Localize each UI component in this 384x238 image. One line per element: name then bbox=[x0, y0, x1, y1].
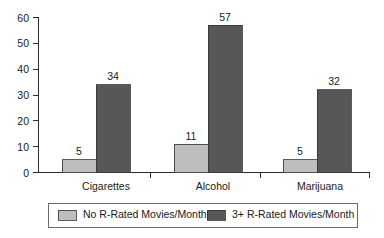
y-tick-label: 40 bbox=[17, 63, 29, 75]
bar-value-label: 5 bbox=[76, 145, 82, 157]
legend-swatch-3plus-r-rated bbox=[207, 210, 225, 220]
bar-value-label: 5 bbox=[297, 145, 303, 157]
bar-value-label: 32 bbox=[328, 75, 340, 87]
y-axis-ticks bbox=[33, 18, 39, 173]
bar-marijuana-no-r-rated bbox=[283, 160, 317, 173]
bar-cigarettes-3plus-r-rated bbox=[96, 85, 130, 173]
bar-alcohol-3plus-r-rated bbox=[208, 25, 242, 172]
bar-cigarettes-no-r-rated bbox=[62, 160, 96, 173]
legend-swatch-no-r-rated bbox=[58, 210, 76, 220]
x-category-label-alcohol: Alcohol bbox=[196, 180, 230, 192]
y-axis-tick-labels: 60 50 40 30 20 10 0 bbox=[17, 12, 29, 179]
bar-alcohol-no-r-rated bbox=[174, 144, 208, 172]
bar-value-label: 11 bbox=[186, 130, 197, 142]
bar-value-label: 57 bbox=[219, 11, 231, 23]
bar-marijuana-3plus-r-rated bbox=[317, 90, 351, 173]
legend-label-no-r-rated: No R-Rated Movies/Month bbox=[83, 208, 207, 220]
y-tick-label: 0 bbox=[23, 167, 29, 179]
y-tick-label: 60 bbox=[17, 12, 29, 24]
chart-canvas: 60 50 40 30 20 10 0 5 34 Cigarettes 11 bbox=[0, 0, 384, 238]
bar-group-marijuana: 5 32 Marijuana bbox=[283, 75, 351, 192]
x-category-label-cigarettes: Cigarettes bbox=[82, 180, 130, 192]
y-tick-label: 20 bbox=[17, 115, 29, 127]
y-tick-label: 10 bbox=[17, 141, 29, 153]
y-tick-label: 30 bbox=[17, 89, 29, 101]
bar-group-alcohol: 11 57 Alcohol bbox=[174, 11, 242, 192]
bar-group-cigarettes: 5 34 Cigarettes bbox=[62, 70, 130, 192]
y-tick-label: 50 bbox=[17, 37, 29, 49]
legend-label-3plus-r-rated: 3+ R-Rated Movies/Month bbox=[232, 208, 354, 220]
bar-chart: 60 50 40 30 20 10 0 5 34 Cigarettes 11 bbox=[0, 0, 384, 238]
chart-legend: No R-Rated Movies/Month 3+ R-Rated Movie… bbox=[49, 204, 358, 228]
x-axis-ticks bbox=[151, 173, 370, 179]
bar-value-label: 34 bbox=[107, 70, 119, 82]
x-category-label-marijuana: Marijuana bbox=[297, 180, 343, 192]
